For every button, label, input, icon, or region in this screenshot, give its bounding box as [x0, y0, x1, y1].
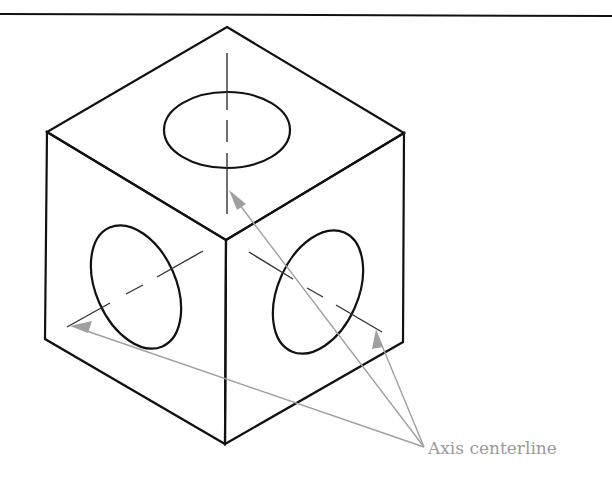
header-rule	[0, 14, 612, 16]
centerlines	[67, 53, 382, 332]
leader-lines	[78, 196, 424, 447]
cube-top-face	[47, 27, 404, 240]
left-hole-ellipse	[73, 211, 199, 362]
leader-to-right	[378, 336, 424, 447]
arrowhead-top-icon	[229, 190, 246, 210]
axis-centerline-label: Axis centerline	[428, 438, 557, 458]
leader-to-top	[233, 196, 424, 447]
left-centerline-dash	[126, 285, 143, 294]
diagram-canvas	[0, 0, 612, 478]
cube-right-face	[225, 133, 404, 444]
cube-left-face	[45, 132, 226, 444]
right-hole-ellipse	[255, 216, 381, 367]
